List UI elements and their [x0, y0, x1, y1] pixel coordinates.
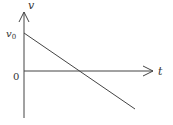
t-axis-label: t: [158, 65, 163, 78]
v0-label: v0: [6, 28, 16, 41]
v-axis-label: v: [28, 0, 35, 12]
origin-label: 0: [13, 71, 19, 82]
v0-sub: 0: [12, 33, 16, 41]
vt-graph: v t v0 0: [0, 0, 173, 125]
